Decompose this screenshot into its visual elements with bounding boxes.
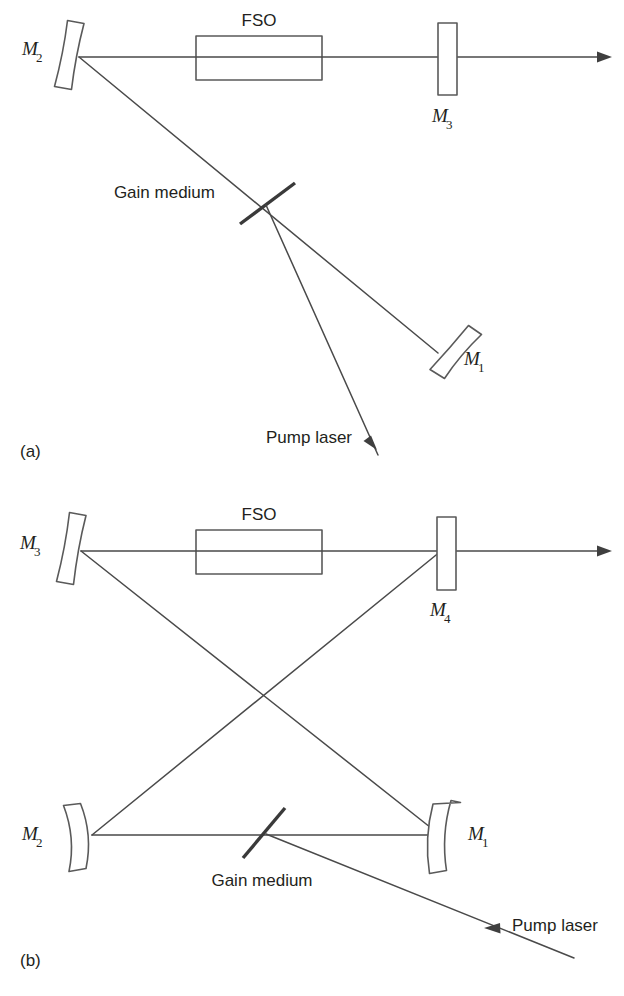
beam-a-fold-m2-to-m1 xyxy=(79,57,438,353)
panel-b: FSO M 3 M 4 M 2 M 1 Gain medium xyxy=(19,505,612,970)
beam-b-output-arrowhead xyxy=(597,546,612,557)
fso-box-a xyxy=(196,36,322,80)
mirror-b-m1 xyxy=(427,801,460,874)
beam-b-diagonal-m3-to-m1 xyxy=(81,551,440,835)
mirror-a-m1-label-sub: 1 xyxy=(478,360,485,375)
beam-b-pump xyxy=(266,834,574,958)
mirror-b-m2 xyxy=(64,804,89,872)
mirror-a-m2 xyxy=(55,21,85,90)
figure-page: FSO M 2 M 3 Gain medium M 1 Pump laser (… xyxy=(0,0,624,996)
beam-a-output-arrowhead xyxy=(597,52,612,63)
fso-label-b: FSO xyxy=(242,505,277,524)
panel-caption-a: (a) xyxy=(20,442,41,461)
pump-laser-label-a: Pump laser xyxy=(266,428,352,447)
mirror-a-m3 xyxy=(438,23,457,95)
gain-medium-label-b: Gain medium xyxy=(211,871,312,890)
mirror-b-m3 xyxy=(57,513,87,585)
mirror-b-m2-label-sub: 2 xyxy=(36,835,43,850)
fso-label-a: FSO xyxy=(242,11,277,30)
pump-laser-label-b: Pump laser xyxy=(512,916,598,935)
beam-a-pump-arrowhead xyxy=(364,436,378,451)
gain-medium-a xyxy=(240,183,295,224)
mirror-a-m2-label-sub: 2 xyxy=(36,50,43,65)
gain-medium-label-a: Gain medium xyxy=(114,183,215,202)
gain-medium-b xyxy=(243,808,285,858)
laser-cavity-figure: FSO M 2 M 3 Gain medium M 1 Pump laser (… xyxy=(0,0,624,996)
panel-a: FSO M 2 M 3 Gain medium M 1 Pump laser (… xyxy=(20,11,612,461)
beam-b-diagonal-m4-to-m2 xyxy=(92,551,441,835)
mirror-b-m3-label-sub: 3 xyxy=(34,544,41,559)
fso-box-b xyxy=(196,530,322,574)
beam-a-pump xyxy=(266,205,378,455)
panel-caption-b: (b) xyxy=(20,951,41,970)
mirror-a-m3-label-sub: 3 xyxy=(446,117,453,132)
mirror-b-m4-label-sub: 4 xyxy=(444,611,451,626)
mirror-b-m1-label-sub: 1 xyxy=(482,835,489,850)
mirror-b-m4 xyxy=(437,517,456,590)
